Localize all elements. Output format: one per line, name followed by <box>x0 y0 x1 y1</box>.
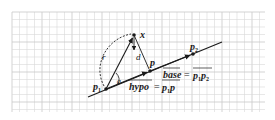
svg-text:=: = <box>154 81 160 92</box>
svg-text:p1p: p1p <box>161 82 175 94</box>
label-x: x <box>139 29 145 40</box>
label-d: d <box>136 52 141 62</box>
point-p1 <box>104 87 108 91</box>
label-r: r <box>102 52 106 62</box>
svg-text:hypo: hypo <box>129 81 149 92</box>
label-p1: p1 <box>92 81 101 93</box>
svg-text:base: base <box>163 69 182 80</box>
point-p <box>148 69 152 73</box>
label-p: p <box>149 57 155 68</box>
svg-text:=: = <box>184 69 190 80</box>
label-p2: p2 <box>189 41 198 53</box>
hypo-equation: hypo = p1p <box>129 80 180 94</box>
point-x <box>132 33 136 37</box>
grid-paper <box>12 12 265 112</box>
label-a: a <box>117 77 121 86</box>
projection-diagram: x r d a p p1 p2 base = p1p2 hypo = p1p <box>0 0 275 120</box>
